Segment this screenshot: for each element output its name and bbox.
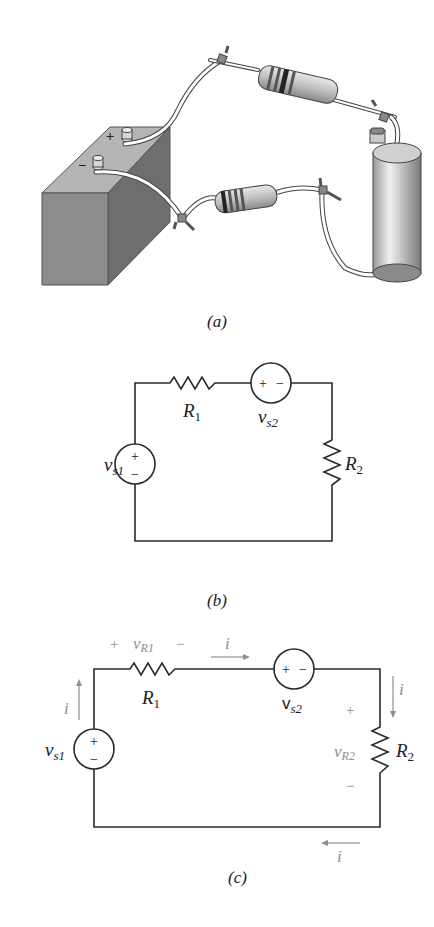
wire-b [135, 377, 340, 541]
cylinder-component [370, 128, 421, 282]
svg-text:−: − [176, 636, 184, 652]
panel-a-caption: (a) [207, 312, 227, 332]
panel-c-caption: (c) [228, 868, 247, 888]
current-arrow-top: i [211, 634, 250, 660]
vs2-label-c: vs2 [282, 694, 303, 716]
vs2-source-c [274, 649, 314, 689]
vs1-source-c [74, 729, 114, 769]
vr2-annotation: + vR2 − [334, 702, 355, 794]
svg-text:+: + [346, 702, 354, 718]
vs2-minus-c: − [299, 662, 307, 677]
panel-b-caption: (b) [207, 591, 227, 611]
battery: + − [42, 127, 170, 285]
wire-c [94, 663, 388, 827]
vs2-plus-c: + [282, 662, 290, 677]
resistor-top [256, 64, 339, 105]
current-arrow-left: i [64, 679, 82, 720]
vs1-plus-b: + [131, 449, 139, 464]
r2-label-b: R2 [344, 453, 363, 477]
vs2-minus-b: − [276, 376, 284, 391]
panel-a-illustration: + − [0, 0, 434, 300]
resistor-bottom [214, 184, 278, 214]
r1-label-c: R1 [141, 687, 160, 711]
current-arrow-bottom: i [321, 840, 360, 866]
vs1-label-c: vs1 [45, 739, 65, 763]
r2-label-c: R2 [395, 740, 414, 764]
svg-text:+: + [110, 636, 118, 652]
vs1-minus-b: − [131, 467, 139, 482]
vs1-minus-c: − [90, 752, 98, 767]
vs1-source-b [115, 444, 155, 484]
svg-text:vR1: vR1 [133, 634, 154, 655]
svg-text:i: i [64, 699, 69, 718]
svg-text:i: i [337, 847, 342, 866]
vs1-label-b: vs1 [104, 454, 124, 478]
svg-text:i: i [225, 634, 230, 653]
vr1-annotation: + vR1 − [110, 634, 184, 655]
r1-label-b: R1 [182, 400, 201, 424]
vs1-plus-c: + [90, 734, 98, 749]
vs2-source-b [251, 363, 291, 403]
vs2-plus-b: + [259, 376, 267, 391]
svg-text:vR2: vR2 [334, 742, 355, 763]
svg-text:−: − [346, 778, 354, 794]
svg-text:i: i [399, 680, 404, 699]
battery-minus-label: − [78, 157, 86, 173]
battery-plus-label: + [106, 128, 114, 144]
current-arrow-right: i [390, 676, 404, 718]
vs2-label-b: vs2 [258, 406, 278, 430]
